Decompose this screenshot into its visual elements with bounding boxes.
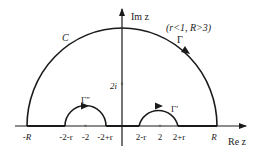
- imag-marker-2i-label: 2i: [110, 81, 118, 91]
- tick-2-plus-r: 2+r: [173, 132, 186, 142]
- tick-2: 2: [158, 132, 163, 142]
- pole-marker-2i: ×: [120, 81, 123, 87]
- pole-marker-right: ×: [158, 123, 161, 129]
- tick-neg2: -2: [82, 132, 90, 142]
- contour-gamma-double-prime-label: Γ″: [81, 95, 90, 105]
- contour-gamma-prime-label: Γ′: [171, 104, 178, 114]
- contour-diagram: × × × Im z Re z (r<1, R>3) C Γ Γ″ Γ′ 2i …: [0, 0, 256, 149]
- real-axis-label: Re z: [228, 136, 247, 147]
- contour-gamma-label: Γ: [177, 34, 183, 45]
- gamma-arrow-icon: [181, 46, 190, 54]
- tick-neg2-plus-r: -2+r: [97, 132, 113, 142]
- gamma-prime-arrow-icon: [155, 103, 163, 110]
- condition-label: (r<1, R>3): [166, 22, 212, 34]
- tick-2-minus-r: 2-r: [136, 132, 147, 142]
- contour-c-label: C: [62, 32, 69, 43]
- tick-R: R: [210, 132, 217, 142]
- tick-neg2-minus-r: -2-r: [59, 132, 73, 142]
- imag-axis-label: Im z: [131, 11, 150, 22]
- tick-neg-R: -R: [23, 132, 32, 142]
- pole-marker-left: ×: [84, 123, 87, 129]
